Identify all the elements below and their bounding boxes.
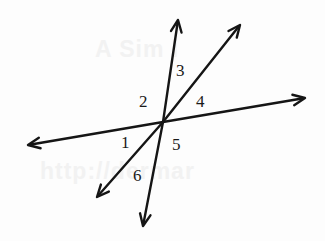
ray-right bbox=[163, 98, 302, 122]
rays-group bbox=[28, 20, 305, 226]
ray-left bbox=[31, 122, 163, 144]
angle-label-3: 3 bbox=[176, 62, 185, 79]
angle-label-1: 1 bbox=[121, 134, 130, 151]
angle-diagram bbox=[0, 0, 325, 241]
ray-down bbox=[144, 122, 163, 223]
angle-label-5: 5 bbox=[172, 136, 181, 153]
angle-label-6: 6 bbox=[133, 167, 142, 184]
angle-label-2: 2 bbox=[139, 93, 148, 110]
angle-label-4: 4 bbox=[196, 93, 205, 110]
ray-down-left bbox=[99, 122, 163, 195]
